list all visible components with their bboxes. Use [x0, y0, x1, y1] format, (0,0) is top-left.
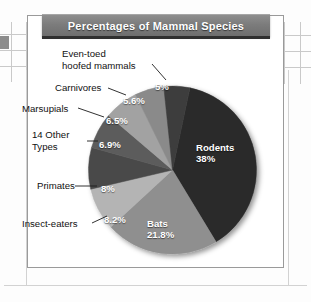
callout-carnivores: Carnivores: [55, 82, 101, 94]
leader-marsupials: [78, 108, 104, 117]
leader-carnivores: [108, 88, 126, 95]
callout-14-other-types: 14 Other Types: [32, 129, 69, 152]
leader-insect-eaters: [92, 216, 107, 223]
callout-marsupials: Marsupials: [22, 103, 68, 115]
callout-insect-eaters: Insect-eaters: [22, 218, 77, 230]
leader-even-toed: [152, 64, 166, 80]
callout-primates: Primates: [37, 180, 75, 192]
callout-even-toed-hoofed-mammals: Even-toed hoofed mammals: [62, 48, 136, 71]
